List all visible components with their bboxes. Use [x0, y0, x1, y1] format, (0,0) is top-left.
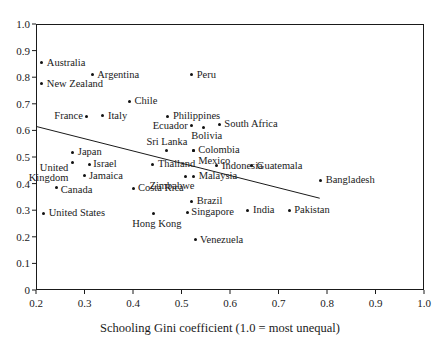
data-point-label: Costa Rica: [138, 183, 184, 194]
data-point-label: Italy: [108, 111, 127, 122]
data-point-label: Jamaica: [89, 171, 123, 182]
data-point-label: Singapore: [191, 207, 234, 218]
data-point-label: United Kingdom: [29, 163, 69, 184]
data-point-label: New Zealand: [47, 79, 103, 90]
x-tick-label: 1.0: [409, 298, 439, 309]
data-point-label: Canada: [61, 185, 93, 196]
data-point: [319, 179, 322, 182]
data-point-label: Australia: [47, 58, 86, 69]
data-point-label: Bangladesh: [326, 175, 375, 186]
data-point-label: Israel: [93, 159, 116, 170]
y-tick-label: 0.3: [2, 205, 30, 216]
data-point-label: South Africa: [224, 119, 277, 130]
data-point: [288, 209, 291, 212]
x-axis-tick-marks: [36, 290, 424, 294]
data-point-label: Peru: [197, 70, 216, 81]
data-point-label: France: [54, 111, 83, 122]
y-tick-label: 0.7: [2, 99, 30, 110]
x-tick-label: 0.9: [361, 298, 391, 309]
data-point-label: Malaysia: [199, 171, 238, 182]
data-point-label: Thailand: [158, 159, 195, 170]
x-axis-title: Schooling Gini coefficient (1.0 = most u…: [0, 321, 440, 336]
data-point-label: Japan: [78, 147, 102, 158]
x-tick-label: 0.3: [70, 298, 100, 309]
x-tick-label: 0.8: [312, 298, 342, 309]
y-tick-label: 0.1: [2, 258, 30, 269]
x-tick-label: 0.5: [167, 298, 197, 309]
y-tick-label: 0.2: [2, 232, 30, 243]
data-point-label: Chile: [135, 96, 158, 107]
y-tick-label: 0.9: [2, 46, 30, 57]
data-point: [184, 175, 187, 178]
y-tick-label: 0.8: [2, 72, 30, 83]
data-point-label: Venezuela: [200, 235, 243, 246]
data-point-label: India: [253, 205, 275, 216]
scatter-plot-figure: 00.10.20.30.40.50.60.70.80.91.0 0.20.30.…: [0, 0, 440, 346]
x-tick-label: 0.2: [21, 298, 51, 309]
data-point-label: Colombia: [198, 145, 239, 156]
x-tick-label: 0.7: [264, 298, 294, 309]
y-tick-label: 0.6: [2, 125, 30, 136]
data-point: [91, 73, 94, 76]
y-tick-label: 0.5: [2, 152, 30, 163]
data-point-label: Argentina: [97, 70, 139, 81]
data-point-label: Guatemala: [257, 161, 302, 172]
data-point: [88, 163, 91, 166]
y-tick-label: 0.4: [2, 179, 30, 190]
y-tick-label: 1.0: [2, 19, 30, 30]
data-point: [128, 100, 131, 103]
data-point: [186, 211, 189, 214]
data-point-label: Hong Kong: [97, 219, 217, 230]
data-point-label: United States: [49, 208, 105, 219]
y-tick-label: 0: [2, 285, 30, 296]
data-point-label: Pakistan: [294, 205, 330, 216]
data-point: [132, 187, 135, 190]
x-tick-label: 0.6: [215, 298, 245, 309]
data-point-label: Ecuador: [153, 121, 188, 132]
x-tick-label: 0.4: [118, 298, 148, 309]
data-point: [218, 123, 221, 126]
